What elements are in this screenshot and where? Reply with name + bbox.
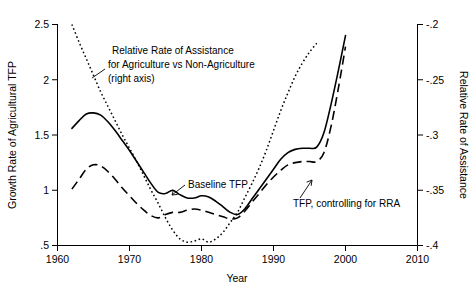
x-tick-label-1980: 1980 [190,253,214,265]
x-axis-title: Year [226,272,248,284]
x-tick-label-1970: 1970 [118,253,142,265]
y2-tick-label-minus_3: -.3 [426,129,438,141]
y2-tick-label-minus_2: -.2 [426,18,438,30]
y-tick-label-2: 2 [43,74,49,86]
x-tick-label-1990: 1990 [262,253,286,265]
chart-svg: 2.5 2 1.5 1 .5 -.2 -.25 -.3 -.35 -.4 196… [0,0,473,295]
y-tick-label-2_5: 2.5 [34,18,49,30]
y-axis-left-title: Growth Rate of Agricultural TFP [6,61,18,209]
rra-annotation-line1: Relative Rate of Assistance [112,45,234,56]
y2-tick-label-minus_4: -.4 [426,239,438,251]
y2-tick-label-minus_25: -.25 [426,74,444,86]
y2-tick-label-minus_35: -.35 [426,184,444,196]
chart-figure: 2.5 2 1.5 1 .5 -.2 -.25 -.3 -.35 -.4 196… [0,0,473,295]
rra-annotation-line2: for Agriculture vs Non-Agriculture [108,59,255,70]
x-tick-label-2010: 2010 [406,253,430,265]
chart-background [0,0,473,295]
y-tick-label-0_5: .5 [40,239,49,251]
baseline-tfp-annotation-label: Baseline TFP [188,179,248,190]
y-tick-label-1_5: 1.5 [34,129,49,141]
x-tick-label-1960: 1960 [46,253,70,265]
x-tick-label-2000: 2000 [334,253,358,265]
rra-annotation-line3: (right axis) [108,73,155,84]
y-axis-right-title: Relative Rate of Assistance [458,71,470,199]
y-tick-label-1: 1 [43,184,49,196]
tfp-rra-annotation-label: TFP, controlling for RRA [293,198,400,209]
